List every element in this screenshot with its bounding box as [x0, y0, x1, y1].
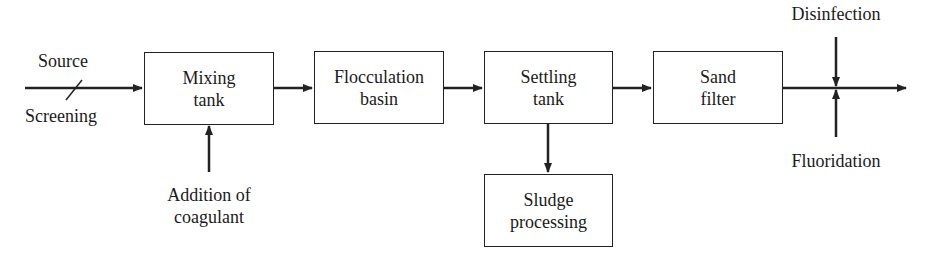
sludge-processing-line2: processing: [510, 211, 587, 233]
sludge-processing-line1: Sludge: [523, 189, 573, 211]
sand-filter-line2: filter: [701, 88, 736, 110]
addition-line2: coagulant: [154, 206, 264, 228]
screening-label: Screening: [25, 105, 97, 127]
settling-tank-line1: Settling: [520, 66, 576, 88]
mixing-tank-box: Mixing tank: [144, 52, 274, 125]
flocculation-basin-box: Flocculation basin: [314, 51, 444, 124]
addition-of-coagulant-label: Addition of coagulant: [154, 184, 264, 228]
mixing-tank-line2: tank: [194, 89, 225, 111]
sludge-processing-box: Sludge processing: [484, 174, 613, 247]
flow-arrows: [0, 0, 929, 257]
settling-tank-box: Settling tank: [484, 51, 613, 124]
disinfection-label: Disinfection: [782, 3, 890, 25]
fluoridation-label: Fluoridation: [780, 150, 892, 172]
flocculation-basin-line1: Flocculation: [334, 66, 424, 88]
settling-tank-line2: tank: [533, 88, 564, 110]
mixing-tank-line1: Mixing: [182, 67, 235, 89]
sand-filter-line1: Sand: [700, 66, 736, 88]
sand-filter-box: Sand filter: [653, 51, 783, 124]
addition-line1: Addition of: [154, 184, 264, 206]
source-label: Source: [38, 50, 88, 72]
flocculation-basin-line2: basin: [360, 88, 398, 110]
